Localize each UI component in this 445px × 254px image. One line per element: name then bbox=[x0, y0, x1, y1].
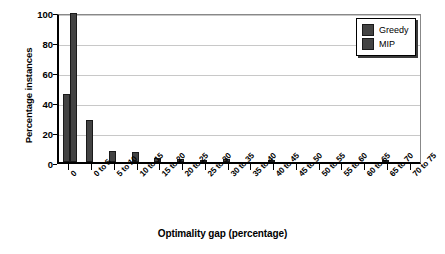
legend-item: MIP bbox=[362, 37, 409, 51]
bar bbox=[63, 94, 70, 162]
legend-swatch-icon bbox=[362, 38, 374, 50]
chart-legend: GreedyMIP bbox=[356, 18, 416, 56]
chart-figure: Percentage instances 020406080100 00 to … bbox=[0, 0, 445, 254]
x-tick-label: 0 bbox=[69, 169, 78, 178]
x-tick-mark bbox=[228, 164, 229, 170]
x-tick-mark bbox=[137, 164, 138, 170]
y-tick-label: 100 bbox=[13, 9, 53, 20]
bar bbox=[70, 13, 77, 162]
legend-item: Greedy bbox=[362, 23, 409, 37]
x-tick-mark bbox=[91, 164, 92, 170]
x-tick-mark bbox=[296, 164, 297, 170]
y-tick-label: 60 bbox=[13, 69, 53, 80]
legend-label: MIP bbox=[379, 39, 395, 49]
y-tick-label: 0 bbox=[13, 159, 53, 170]
x-axis-title: Optimality gap (percentage) bbox=[0, 228, 445, 239]
x-tick-mark bbox=[159, 164, 160, 170]
x-tick-mark bbox=[205, 164, 206, 170]
x-tick-mark bbox=[341, 164, 342, 170]
y-tick-mark bbox=[53, 164, 57, 165]
bar bbox=[86, 120, 93, 162]
y-tick-label: 40 bbox=[13, 99, 53, 110]
legend-label: Greedy bbox=[379, 25, 409, 35]
x-tick-mark bbox=[273, 164, 274, 170]
x-tick-mark bbox=[364, 164, 365, 170]
x-tick-mark bbox=[387, 164, 388, 170]
x-tick-mark bbox=[114, 164, 115, 170]
x-tick-mark bbox=[410, 164, 411, 170]
y-tick-label: 80 bbox=[13, 39, 53, 50]
y-tick-label: 20 bbox=[13, 129, 53, 140]
x-tick-mark bbox=[250, 164, 251, 170]
x-tick-mark bbox=[319, 164, 320, 170]
legend-swatch-icon bbox=[362, 24, 374, 36]
x-tick-mark bbox=[182, 164, 183, 170]
x-tick-mark bbox=[68, 164, 69, 170]
